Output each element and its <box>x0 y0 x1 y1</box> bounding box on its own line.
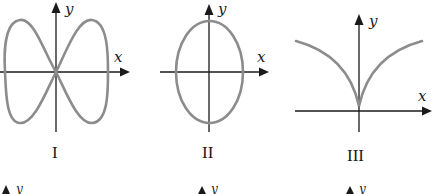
x-axis-arrow-icon <box>259 68 269 77</box>
graph-2: y x II <box>160 0 269 162</box>
graph-label: II <box>202 143 214 162</box>
graph-1: y x I <box>0 0 130 162</box>
y-axis-label: y <box>217 0 227 18</box>
y-axis-label: y <box>368 12 378 30</box>
x-axis-arrow-icon <box>422 107 432 116</box>
y-axis-label: y <box>210 182 218 194</box>
y-axis-label: y <box>64 0 74 18</box>
y-axis-label: y <box>358 182 366 194</box>
x-axis-label: x <box>418 87 427 105</box>
y-axis-arrow-icon <box>198 186 206 194</box>
graph-label: I <box>52 143 58 162</box>
partial-graph-5: y <box>198 182 218 194</box>
partial-graph-4: y <box>2 182 23 194</box>
x-axis-label: x <box>114 48 123 66</box>
partial-graph-6: y <box>346 182 366 194</box>
y-axis-label: y <box>15 182 23 194</box>
graphs-figure: y x I y x II y x III y y y <box>0 0 433 194</box>
x-axis-arrow-icon <box>120 68 130 77</box>
y-axis-arrow-icon <box>52 2 61 13</box>
x-axis-label: x <box>257 48 266 66</box>
y-axis-arrow-icon <box>2 185 10 194</box>
graph-label: III <box>347 146 364 165</box>
graph-3: y x III <box>295 12 432 165</box>
y-axis-arrow-icon <box>346 186 354 194</box>
y-axis-arrow-icon <box>205 4 214 15</box>
y-axis-arrow-icon <box>355 14 364 25</box>
